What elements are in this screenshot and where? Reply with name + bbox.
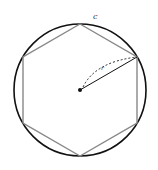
radius-line: [80, 57, 137, 90]
center-point: [78, 88, 82, 92]
hexagon-circle-diagram: c r: [0, 0, 158, 170]
circle-label: c: [93, 12, 98, 21]
radius-label: r: [101, 64, 105, 71]
